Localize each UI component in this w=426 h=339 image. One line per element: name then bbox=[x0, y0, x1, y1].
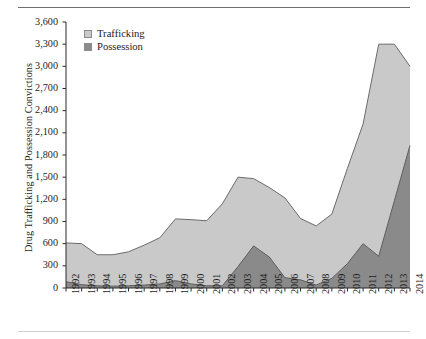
x-tick-label: 2002 bbox=[226, 274, 237, 294]
x-tick-label: 1994 bbox=[101, 274, 112, 294]
x-tick-label: 2005 bbox=[273, 274, 284, 294]
x-tick-label: 2013 bbox=[398, 274, 409, 294]
possession-swatch-icon bbox=[84, 43, 92, 51]
x-tick-label: 2004 bbox=[258, 274, 269, 294]
x-tick-label: 1992 bbox=[70, 274, 81, 294]
x-tick-label: 2014 bbox=[414, 274, 425, 294]
x-tick-label: 2010 bbox=[351, 274, 362, 294]
x-tick-label: 2006 bbox=[289, 274, 300, 294]
x-tick-label: 1999 bbox=[179, 274, 190, 294]
x-tick-label: 2000 bbox=[195, 274, 206, 294]
x-tick-label: 1996 bbox=[133, 274, 144, 294]
chart-figure: Drug Trafficking and Possession Convicti… bbox=[0, 0, 426, 339]
chart-legend: Trafficking Possession bbox=[84, 27, 145, 53]
x-tick-label: 1997 bbox=[148, 274, 159, 294]
trafficking-swatch-icon bbox=[84, 30, 92, 38]
x-tick-label: 2009 bbox=[336, 274, 347, 294]
x-tick-label: 2012 bbox=[383, 274, 394, 294]
x-tick-label: 2008 bbox=[320, 274, 331, 294]
x-tick-label: 1993 bbox=[86, 274, 97, 294]
legend-item-possession: Possession bbox=[84, 40, 145, 53]
x-tick-label: 1998 bbox=[164, 274, 175, 294]
x-tick-label: 2011 bbox=[367, 274, 378, 294]
x-tick-label: 2001 bbox=[211, 274, 222, 294]
x-axis-tick-labels: 1992199319941995199619971998199920002001… bbox=[0, 0, 426, 339]
legend-item-trafficking: Trafficking bbox=[84, 27, 145, 40]
legend-label-possession: Possession bbox=[97, 40, 143, 53]
legend-label-trafficking: Trafficking bbox=[97, 27, 145, 40]
x-tick-label: 2007 bbox=[305, 274, 316, 294]
x-tick-label: 1995 bbox=[117, 274, 128, 294]
x-tick-label: 2003 bbox=[242, 274, 253, 294]
